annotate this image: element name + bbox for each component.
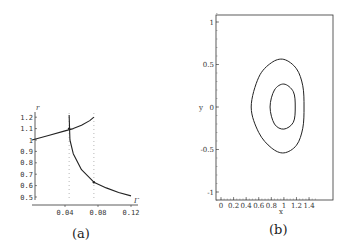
panel-b-y-tick-label: 0.5	[203, 61, 214, 69]
panel-b-caption: (b)	[269, 222, 287, 237]
panel-b-orbits	[251, 59, 304, 153]
lower-branch-curve	[69, 115, 131, 196]
panel-a-y-tick-label: 1.1	[20, 125, 33, 133]
panel-a-y-tick-label: 1.2	[20, 114, 33, 122]
panel-a-y-ticks: 0.50.60.70.80.911.11.2	[20, 114, 37, 202]
panel-a-x-tick-label: 0.12	[123, 209, 140, 217]
panel-b-y-tick-label: 0	[210, 104, 214, 112]
panel-b-x-tick-label: 0.4	[241, 202, 253, 210]
panel-b-x-tick-label: 1.4	[303, 202, 315, 210]
panel-a-y-tick-label: 0.8	[20, 159, 33, 167]
panel-a-points	[68, 127, 95, 183]
panel-b-x-tick-label: 1.2	[291, 202, 302, 210]
panel-a: 0.50.60.70.80.911.11.2 0.040.080.12 r Γ …	[20, 104, 140, 241]
panel-b-x-tick-label: 0.8	[266, 202, 277, 210]
panel-b-y-tick-label: -1	[207, 189, 214, 197]
figure: 0.50.60.70.80.911.11.2 0.040.080.12 r Γ …	[0, 0, 361, 246]
panel-b-y-label: y	[198, 104, 203, 112]
panel-a-x-tick-label: 0.08	[90, 209, 107, 217]
panel-b-y-tick-label: 1	[210, 19, 214, 27]
panel-a-x-tick-label: 0.04	[57, 209, 74, 217]
panel-a-point	[93, 181, 95, 183]
panel-a-x-ticks: 0.040.080.12	[57, 205, 140, 217]
panel-a-x-label: Γ	[133, 197, 140, 205]
upper-branch-curve	[32, 117, 94, 140]
panel-a-caption: (a)	[72, 226, 90, 241]
panel-b-frame	[216, 15, 333, 200]
panel-a-y-tick-label: 1	[29, 137, 33, 145]
panel-b-x-ticks: 00.20.40.60.811.21.4	[219, 197, 316, 210]
outer-orbit-curve	[251, 59, 304, 153]
panel-a-y-tick-label: 0.6	[20, 182, 33, 190]
panel-b-x-tick-label: 0.6	[253, 202, 265, 210]
panel-a-curves	[32, 115, 131, 196]
panel-a-dotted-lines	[69, 113, 94, 200]
panel-b-x-tick-label: 0	[219, 202, 223, 210]
inner-orbit-curve	[270, 84, 295, 129]
panel-a-y-label: r	[36, 104, 40, 112]
panel-a-y-tick-label: 0.5	[20, 194, 33, 202]
panel-a-point	[68, 127, 70, 129]
panel-b-x-label: x	[279, 208, 283, 216]
panel-a-y-tick-label: 0.9	[20, 148, 33, 156]
panel-b: -1-0.500.51 00.20.40.60.811.21.4 y x (b)	[198, 14, 333, 238]
panel-b-x-tick-label: 0.2	[228, 202, 239, 210]
panel-a-y-tick-label: 0.7	[20, 171, 33, 179]
panel-b-y-tick-label: -0.5	[201, 146, 215, 154]
